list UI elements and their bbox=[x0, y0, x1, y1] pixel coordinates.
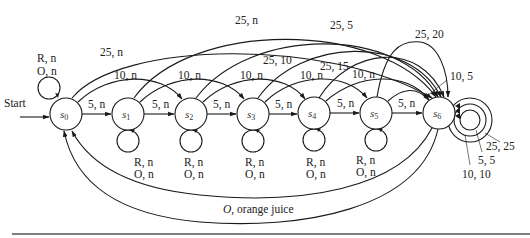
label-orange-juice: O, orange juice bbox=[223, 203, 294, 216]
label-s6-5-5: 5, 5 bbox=[478, 154, 496, 167]
label-s3-loop-o: O, n bbox=[245, 168, 265, 181]
label-s5-s6-10-5: 10, 5 bbox=[450, 70, 473, 83]
label-s1-25n: 25, n bbox=[235, 14, 258, 27]
label-25-20: 25, 20 bbox=[415, 28, 444, 41]
label-s6-10-10: 10, 10 bbox=[462, 168, 491, 181]
state-s6: s6 bbox=[423, 97, 455, 129]
state-s1: s1 bbox=[112, 98, 144, 130]
state-s5: s5 bbox=[360, 97, 392, 129]
label-s5-loop-o: O, n bbox=[356, 166, 376, 179]
state-s3: s3 bbox=[237, 98, 269, 130]
label-s4-s6-10n: 10, n bbox=[352, 68, 375, 81]
label-s4-loop-o: O, n bbox=[306, 168, 326, 181]
state-s4: s4 bbox=[298, 97, 330, 129]
label-s3-s4: 5, n bbox=[275, 98, 293, 111]
label-s0-s2-10n: 10, n bbox=[114, 69, 137, 82]
start-arrow: Start bbox=[4, 97, 49, 117]
loop-s5 bbox=[365, 129, 387, 151]
loop-s4 bbox=[303, 129, 325, 151]
label-s0-loop-o: O, n bbox=[37, 65, 57, 78]
state-s0: s0 bbox=[50, 98, 82, 130]
label-25-15: 25, 15 bbox=[320, 60, 349, 73]
label-25-5: 25, 5 bbox=[330, 19, 353, 32]
label-s1-s3-10n: 10, n bbox=[178, 69, 201, 82]
loop-s6-5-5 bbox=[460, 110, 480, 130]
label-s0-25n: 25, n bbox=[100, 46, 123, 59]
label-s0-s1: 5, n bbox=[88, 98, 106, 111]
label-s6-25-25: 25, 25 bbox=[486, 140, 515, 153]
label-s1-s2: 5, n bbox=[152, 98, 170, 111]
loop-s2 bbox=[180, 130, 202, 152]
label-s1-loop-o: O, n bbox=[134, 168, 154, 181]
edge-s5-s6-25-20 bbox=[377, 42, 448, 97]
vending-machine-state-diagram: Start bbox=[0, 0, 530, 238]
label-s2-s3: 5, n bbox=[213, 98, 231, 111]
state-s2: s2 bbox=[175, 98, 207, 130]
label-s2-loop-o: O, n bbox=[184, 168, 204, 181]
loop-s3 bbox=[242, 130, 264, 152]
label-s2-s4-10n: 10, n bbox=[240, 69, 263, 82]
label-s5-s6: 5, n bbox=[398, 97, 416, 110]
start-label: Start bbox=[4, 97, 27, 109]
label-s0-loop-r: R, n bbox=[37, 52, 56, 65]
leader-10-5 bbox=[427, 80, 447, 96]
label-25-10: 25, 10 bbox=[263, 54, 292, 67]
loop-s6-25-25 bbox=[448, 98, 492, 142]
loop-s1 bbox=[117, 130, 139, 152]
label-s4-s5: 5, n bbox=[337, 97, 355, 110]
